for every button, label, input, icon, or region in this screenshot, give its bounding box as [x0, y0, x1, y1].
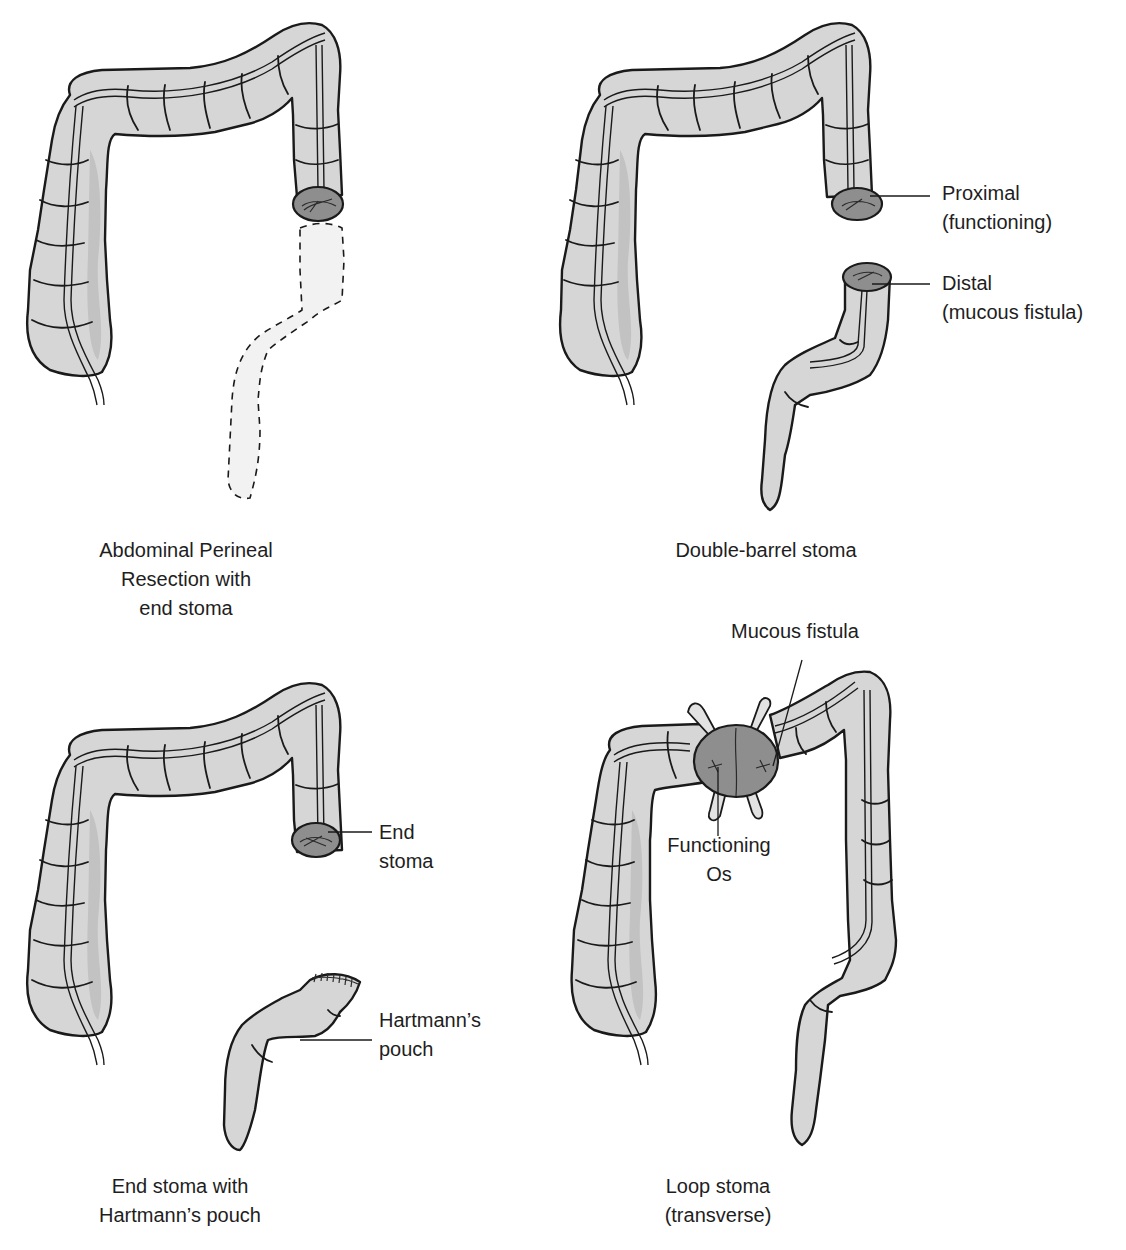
colon-illustration [27, 23, 342, 405]
label-distal-line1: Distal [942, 272, 992, 294]
caption-line: Loop stoma [666, 1175, 771, 1197]
end-stoma [292, 823, 340, 857]
panel-loop-stoma [572, 660, 896, 1145]
label-end-stoma: End stoma [379, 821, 434, 872]
stoma-types-figure: Proximal (functioning) Distal (mucous fi… [0, 0, 1126, 1250]
distal-colon-segment [761, 263, 891, 510]
caption-double-barrel: Double-barrel stoma [675, 539, 857, 561]
resected-rectum-outline [228, 224, 344, 499]
label-proximal-line2: (functioning) [942, 211, 1052, 233]
proximal-stoma [832, 188, 882, 220]
caption-line: (transverse) [665, 1204, 772, 1226]
label-functioning-line2: Os [706, 863, 732, 885]
end-stoma [293, 187, 343, 221]
label-hartmanns-line2: pouch [379, 1038, 434, 1060]
label-mucous-fistula: Mucous fistula [731, 620, 860, 642]
hartmanns-pouch [224, 973, 360, 1150]
label-end-stoma-line2: stoma [379, 850, 434, 872]
panel-apr [27, 23, 344, 498]
caption-line: Double-barrel stoma [675, 539, 857, 561]
caption-line: Resection with [121, 568, 251, 590]
panel-double-barrel [560, 23, 930, 510]
label-proximal: Proximal (functioning) [942, 182, 1052, 233]
caption-loop-stoma: Loop stoma (transverse) [665, 1175, 772, 1226]
caption-apr: Abdominal Perineal Resection with end st… [99, 539, 272, 619]
caption-line: End stoma with [112, 1175, 249, 1197]
label-distal-line2: (mucous fistula) [942, 301, 1083, 323]
caption-line: Abdominal Perineal [99, 539, 272, 561]
label-functioning-line1: Functioning [667, 834, 770, 856]
distal-stoma [843, 263, 891, 291]
caption-line: Hartmann’s pouch [99, 1204, 261, 1226]
label-proximal-line1: Proximal [942, 182, 1020, 204]
label-hartmanns-line1: Hartmann’s [379, 1009, 481, 1031]
caption-line: end stoma [139, 597, 233, 619]
caption-hartmann: End stoma with Hartmann’s pouch [99, 1175, 261, 1226]
label-end-stoma-line1: End [379, 821, 415, 843]
label-functioning-os: Functioning Os [667, 834, 770, 885]
loop-stoma-with-rod [688, 698, 778, 820]
label-mucous-fistula-line1: Mucous fistula [731, 620, 860, 642]
label-distal: Distal (mucous fistula) [942, 272, 1083, 323]
panel-hartmann [27, 683, 372, 1150]
label-hartmanns-pouch: Hartmann’s pouch [379, 1009, 481, 1060]
